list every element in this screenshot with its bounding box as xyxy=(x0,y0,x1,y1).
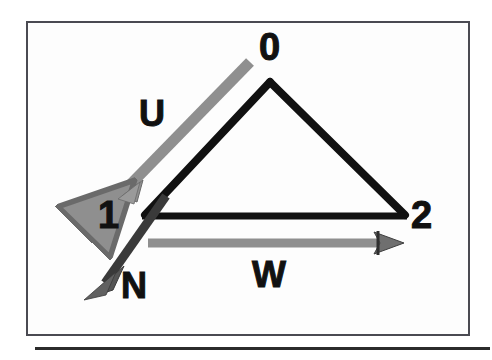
edge-0-2 xyxy=(270,82,405,215)
figure-canvas xyxy=(0,0,492,360)
vertex-label-1: 1 xyxy=(98,196,119,234)
figure-screenshot: 0 1 2 U N W xyxy=(0,0,492,360)
vector-label-u: U xyxy=(139,96,165,132)
vertex-label-2: 2 xyxy=(411,196,432,234)
vector-u-arrow xyxy=(118,62,250,204)
vector-label-w: W xyxy=(252,257,286,293)
caption-horizontal-rule xyxy=(35,347,490,350)
vector-label-v: N xyxy=(121,268,147,304)
vector-w-arrow xyxy=(148,231,404,255)
triangle-edges xyxy=(142,82,407,216)
vertex-label-0: 0 xyxy=(259,28,280,66)
